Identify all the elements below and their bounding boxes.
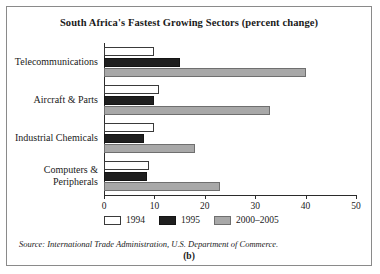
bar	[104, 123, 154, 132]
source-note: Source: International Trade Administrati…	[19, 239, 278, 249]
x-tick-label: 50	[344, 201, 368, 211]
chart-legend: 199419952000–2005	[104, 213, 356, 227]
x-tick	[356, 195, 357, 199]
x-tick	[255, 195, 256, 199]
bar	[104, 68, 306, 77]
x-tick-label: 30	[243, 201, 267, 211]
bar	[104, 182, 220, 191]
bar	[104, 172, 147, 181]
plot-area: 01020304050 TelecommunicationsAircraft &…	[104, 43, 356, 195]
x-tick	[104, 195, 105, 199]
bar-group	[104, 47, 356, 77]
legend-label: 2000–2005	[236, 215, 279, 225]
legend-label: 1995	[181, 215, 200, 225]
x-tick-label: 10	[142, 201, 166, 211]
legend-swatch	[104, 216, 121, 225]
legend-item: 1995	[159, 215, 200, 225]
category-label: Industrial Chemicals	[0, 132, 98, 144]
category-label: Telecommunications	[0, 56, 98, 68]
bar	[104, 144, 195, 153]
category-label: Computers &Peripherals	[0, 164, 98, 187]
figure-panel: South Africa's Fastest Growing Sectors (…	[6, 6, 372, 266]
bar	[104, 106, 270, 115]
bar	[104, 47, 154, 56]
legend-label: 1994	[126, 215, 145, 225]
bar	[104, 161, 149, 170]
x-tick-label: 0	[92, 201, 116, 211]
x-tick-label: 20	[193, 201, 217, 211]
x-tick-label: 40	[294, 201, 318, 211]
legend-item: 1994	[104, 215, 145, 225]
bar	[104, 85, 159, 94]
legend-item: 2000–2005	[214, 215, 279, 225]
legend-swatch	[159, 216, 176, 225]
legend-swatch	[214, 216, 231, 225]
bar	[104, 134, 144, 143]
panel-identifier: (b)	[7, 251, 371, 261]
bar	[104, 96, 154, 105]
x-tick	[154, 195, 155, 199]
chart-title: South Africa's Fastest Growing Sectors (…	[7, 17, 371, 28]
category-label: Aircraft & Parts	[0, 94, 98, 106]
bar	[104, 58, 180, 67]
bar-group	[104, 123, 356, 153]
bar-group	[104, 161, 356, 191]
x-axis-line	[104, 195, 356, 196]
bar-group	[104, 85, 356, 115]
x-tick	[306, 195, 307, 199]
x-tick	[205, 195, 206, 199]
